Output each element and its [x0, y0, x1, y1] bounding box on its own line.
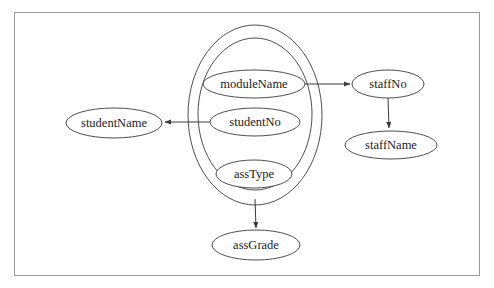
attribute-ellipse-assType[interactable] — [216, 160, 292, 188]
dependency-arrow-staffNo-to-staffName — [388, 98, 389, 128]
attribute-ellipse-staffNo[interactable] — [352, 70, 424, 98]
attribute-ellipse-staffName[interactable] — [345, 131, 437, 159]
attribute-ellipse-studentNo[interactable] — [210, 108, 300, 136]
attribute-ellipse-moduleName[interactable] — [203, 70, 305, 98]
attribute-ellipse-layer — [66, 70, 437, 260]
diagram-canvas — [0, 0, 494, 288]
dependency-arrow-determinant-to-assGrade — [255, 199, 256, 228]
attribute-ellipse-assGrade[interactable] — [212, 230, 300, 260]
diagram-screenshot: studentNamemoduleNamestudentNoassTypeass… — [0, 0, 494, 288]
attribute-ellipse-studentName[interactable] — [66, 108, 162, 138]
